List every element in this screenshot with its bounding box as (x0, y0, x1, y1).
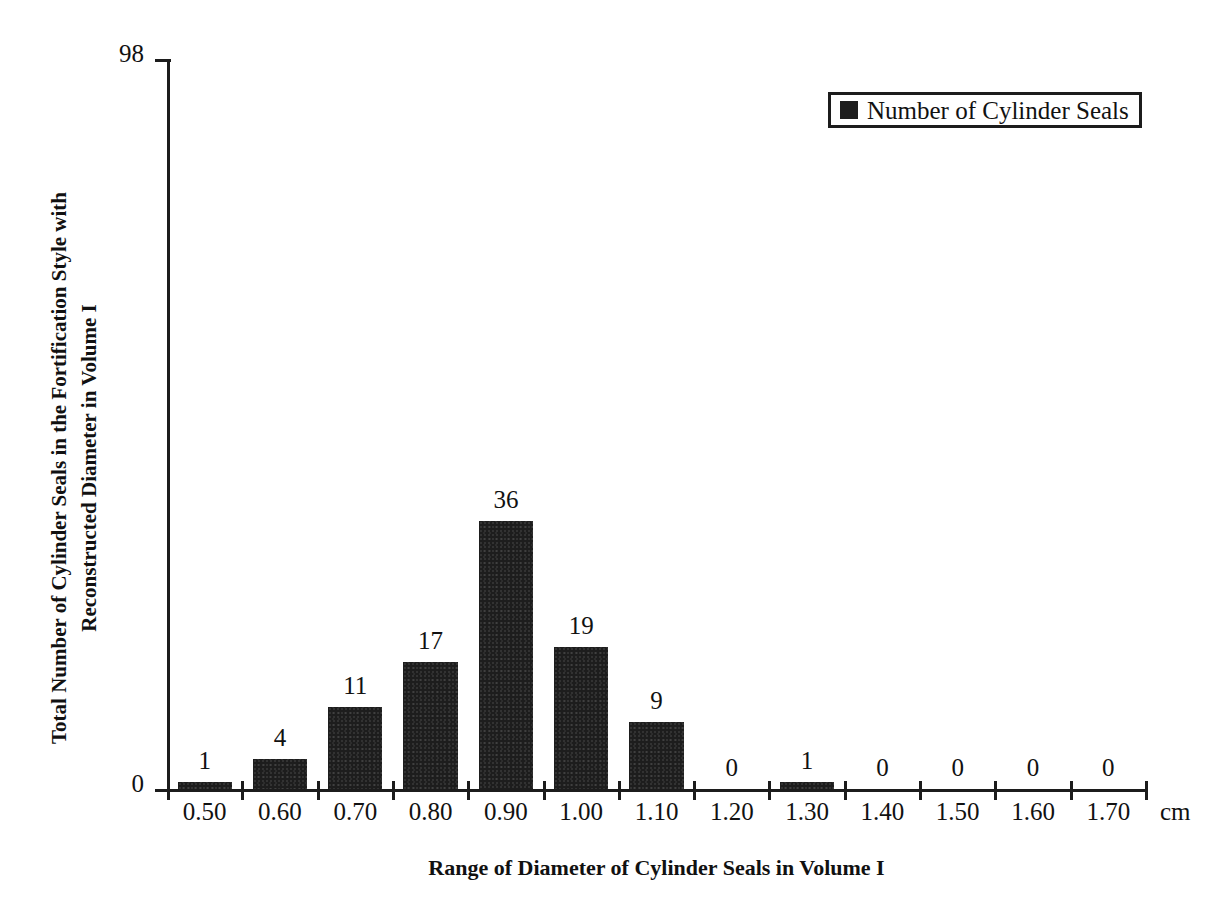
y-axis-title-line-1: Total Number of Cylinder Seals in the Fo… (44, 88, 74, 848)
legend: Number of Cylinder Seals (828, 92, 1142, 128)
bar-value-label: 17 (391, 628, 471, 653)
bar-value-label: 36 (466, 487, 546, 512)
bar-value-label: 0 (993, 755, 1073, 780)
bar-value-label: 9 (617, 688, 697, 713)
legend-swatch-icon (840, 101, 858, 119)
bar (328, 707, 382, 789)
bar-value-label: 19 (541, 613, 621, 638)
bar-value-label: 4 (240, 725, 320, 750)
x-axis-tick-label: 1.70 (1063, 797, 1153, 827)
bar-value-label: 1 (767, 748, 847, 773)
bar-value-label: 0 (692, 755, 772, 780)
y-axis-line (167, 59, 170, 792)
chart-figure: 98 0 Total Number of Cylinder Seals in t… (0, 0, 1221, 900)
bar (780, 782, 834, 789)
bar-value-label: 1 (165, 748, 245, 773)
bar (403, 662, 457, 789)
bar (629, 722, 683, 789)
bar-value-label: 0 (918, 755, 998, 780)
x-axis-unit-label: cm (1160, 797, 1191, 827)
bar (178, 782, 232, 789)
bar-value-label: 0 (1068, 755, 1148, 780)
x-axis-title: Range of Diameter of Cylinder Seals in V… (167, 855, 1146, 881)
bar-value-label: 0 (842, 755, 922, 780)
x-axis-line (167, 789, 1146, 792)
y-axis-tick-top (155, 59, 171, 62)
bar-value-label: 11 (315, 673, 395, 698)
legend-label: Number of Cylinder Seals (867, 98, 1129, 123)
bar (554, 647, 608, 789)
y-axis-title: Total Number of Cylinder Seals in the Fo… (44, 88, 104, 848)
bar (253, 759, 307, 789)
y-axis-title-line-2: Reconstructed Diameter in Volume I (74, 88, 104, 848)
y-axis-tick-label-max: 98 (64, 41, 144, 66)
bar (479, 521, 533, 789)
